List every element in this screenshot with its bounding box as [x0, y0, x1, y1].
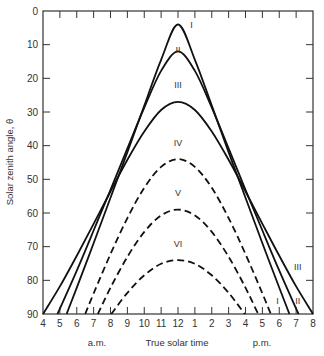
x-tick-label: 6	[74, 318, 80, 329]
y-tick-label: 10	[27, 39, 39, 50]
curve-ii	[57, 51, 298, 314]
x-tick-label: 5	[260, 318, 266, 329]
end-label: I	[276, 296, 279, 306]
x-tick-label: 10	[139, 318, 151, 329]
end-label: II	[295, 296, 300, 306]
y-tick-label: 30	[27, 107, 39, 118]
x-tick-label: 7	[91, 318, 97, 329]
x-tick-label: 12	[172, 318, 184, 329]
x-tick-label: 4	[243, 318, 249, 329]
curve-vi	[111, 260, 244, 314]
y-tick-label: 90	[27, 309, 39, 320]
x-tick-label: 8	[108, 318, 114, 329]
end-label: III	[294, 262, 302, 272]
x-axis-title: True solar time	[146, 337, 209, 348]
x-tick-label: 9	[125, 318, 131, 329]
x-tick-label: 3	[226, 318, 232, 329]
y-axis-title: Solar zenith angle, θ	[4, 119, 15, 206]
x-tick-label: 2	[209, 318, 215, 329]
x-tick-label: 5	[57, 318, 63, 329]
curve-i	[67, 25, 290, 315]
curve-iii	[43, 102, 313, 314]
y-tick-label: 0	[32, 6, 38, 17]
curve-label-i: I	[190, 20, 193, 30]
plot-curves	[43, 25, 313, 315]
x-tick-label: 7	[293, 318, 299, 329]
x-tick-label: 8	[310, 318, 316, 329]
curve-label-v: V	[175, 188, 181, 198]
x-tick-label: 4	[40, 318, 46, 329]
x-axis-am-label: a.m.	[88, 337, 106, 348]
solar-zenith-chart: 456789101112123456780102030405060708090 …	[0, 0, 324, 356]
curve-label-iii: III	[174, 80, 182, 90]
y-tick-label: 50	[27, 174, 39, 185]
y-tick-label: 60	[27, 208, 39, 219]
curve-label-vi: VI	[174, 239, 183, 249]
y-tick-label: 40	[27, 140, 39, 151]
y-tick-label: 20	[27, 73, 39, 84]
x-tick-label: 6	[276, 318, 282, 329]
x-tick-label: 1	[192, 318, 198, 329]
y-tick-label: 80	[27, 275, 39, 286]
curve-label-iv: IV	[174, 138, 183, 148]
curve-label-ii: II	[175, 45, 180, 55]
x-tick-label: 11	[156, 318, 167, 329]
x-axis-pm-label: p.m.	[253, 337, 271, 348]
y-tick-label: 70	[27, 241, 39, 252]
